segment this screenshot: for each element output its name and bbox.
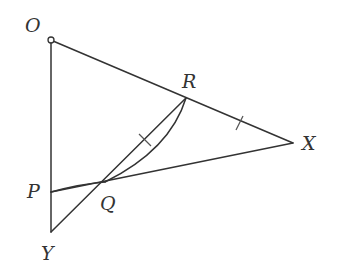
label-X: X: [300, 132, 317, 154]
tick-mark-QR: [139, 134, 151, 146]
segment-YR: [51, 98, 186, 232]
label-R: R: [181, 70, 196, 92]
label-P: P: [26, 180, 41, 202]
label-Q: Q: [100, 192, 116, 214]
tick-mark-RX: [236, 116, 243, 130]
label-Y: Y: [41, 242, 56, 264]
segment-OX: [53, 41, 293, 143]
point-O-marker: [48, 37, 54, 43]
geometry-diagram: O R X P Q Y: [0, 0, 337, 273]
label-O: O: [25, 14, 41, 36]
